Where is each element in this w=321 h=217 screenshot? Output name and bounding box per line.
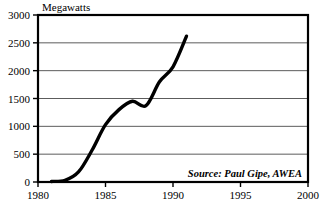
x-tick-label-2000: 2000 (297, 189, 320, 201)
y-tick-label-2000: 2000 (8, 65, 31, 77)
y-tick-label-0: 0 (25, 176, 31, 188)
y-tick-label-2500: 2500 (8, 37, 31, 49)
chart-canvas: 050010001500200025003000 198019851990199… (0, 0, 321, 217)
x-tick-label-1985: 1985 (95, 189, 118, 201)
y-tick-label-3000: 3000 (8, 9, 31, 21)
x-tick-label-1980: 1980 (27, 189, 50, 201)
y-axis-tick-labels: 050010001500200025003000 (8, 9, 31, 188)
wind-capacity-chart: 050010001500200025003000 198019851990199… (0, 0, 321, 217)
capacity-line-series (52, 36, 187, 181)
gridlines (38, 43, 308, 154)
source-annotation: Source: Paul Gipe, AWEA (188, 168, 302, 179)
y-tick-label-1500: 1500 (8, 93, 31, 105)
x-tick-label-1990: 1990 (162, 189, 185, 201)
x-tick-label-1995: 1995 (230, 189, 253, 201)
y-axis-title: Megawatts (42, 1, 90, 13)
y-tick-label-500: 500 (14, 148, 31, 160)
y-tick-label-1000: 1000 (8, 120, 31, 132)
x-axis-tick-labels: 19801985199019952000 (27, 189, 320, 201)
